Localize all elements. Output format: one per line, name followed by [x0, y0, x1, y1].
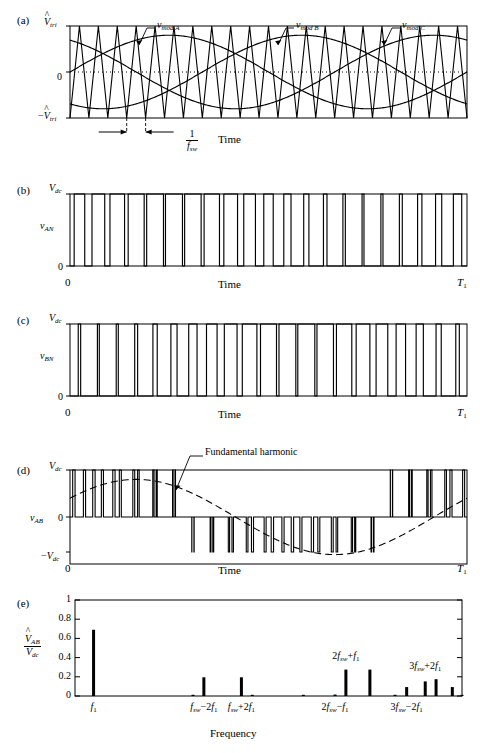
- panel-d-vab: (d) Vdc 0 −Vdc vAB Fundamental harmonic …: [0, 440, 480, 580]
- panel-e-ytick-label: 0.6: [51, 631, 71, 642]
- panel-e-spectrum: (e) VAB Vdc 00.20.40.60.81 f1fsw−2f1fsw+…: [0, 592, 480, 753]
- panel-a-period-annotation: 1fsw: [186, 129, 198, 153]
- panel-e-ytick-label: 0.4: [51, 651, 71, 662]
- panel-c-vbn: (c) Vdc 0 vBN 0 Time T1: [0, 308, 480, 428]
- panel-b-x-end: T1: [457, 276, 467, 290]
- panel-d-xlabel: Time: [218, 564, 241, 576]
- panel-e-ytick-label: 1: [51, 593, 71, 604]
- panel-d-plot: [0, 440, 480, 580]
- panel-b-x-start: 0: [65, 276, 71, 288]
- panel-c-x-end: T1: [457, 406, 467, 420]
- panel-e-xlabel: Frequency: [210, 727, 256, 739]
- panel-b-van: (b) Vdc 0 vAN 0 Time T1: [0, 178, 480, 298]
- panel-e-ytick-label: 0.2: [51, 670, 71, 681]
- panel-e-annotation: 3fsw+2f1: [345, 660, 480, 673]
- panel-a-plot: [0, 0, 480, 152]
- panel-e-xtick-label: 3fsw−2f1: [327, 701, 480, 714]
- panel-e-ytick-label: 0.8: [51, 612, 71, 623]
- panel-a-xlabel: Time: [218, 133, 241, 145]
- panel-d-x-end: T1: [457, 562, 467, 576]
- panel-e-ytick-label: 0: [51, 689, 71, 700]
- panel-b-xlabel: Time: [218, 278, 241, 290]
- panel-c-xlabel: Time: [218, 408, 241, 420]
- panel-a-carrier-and-modulation: (a) Vtri 0 −Vtri vmod A vmod B vmod C Ti…: [0, 0, 480, 152]
- panel-d-x-start: 0: [65, 562, 71, 574]
- panel-c-x-start: 0: [65, 406, 71, 418]
